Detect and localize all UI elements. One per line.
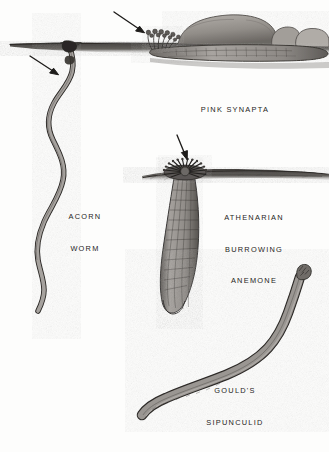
label-sipunculid-line-2: SIPUNCULID (176, 418, 294, 429)
acorn-worm-collar (62, 41, 77, 53)
synapta-body (150, 45, 329, 62)
label-acorn-worm-line-2: WORM (38, 244, 132, 255)
label-sipunculid-line-1: GOULD'S (176, 386, 294, 397)
label-goulds-sipunculid: GOULD'S SIPUNCULID (176, 365, 294, 449)
label-pink-synapta: PINK SYNAPTA (176, 84, 294, 137)
label-anemone-line-2: BURROWING (198, 245, 310, 256)
label-anemone-line-1: ATHENARIAN (198, 213, 310, 224)
illustration-plate: PINK SYNAPTA ACORN WORM ATHENARIAN BURRO… (0, 0, 329, 452)
label-acorn-worm-line-1: ACORN (38, 212, 132, 223)
label-pink-synapta-line-1: PINK SYNAPTA (176, 105, 294, 116)
label-anemone-line-3: ANEMONE (198, 276, 310, 287)
label-athenarian-anemone: ATHENARIAN BURROWING ANEMONE (198, 192, 310, 308)
label-acorn-worm: ACORN WORM (38, 191, 132, 275)
